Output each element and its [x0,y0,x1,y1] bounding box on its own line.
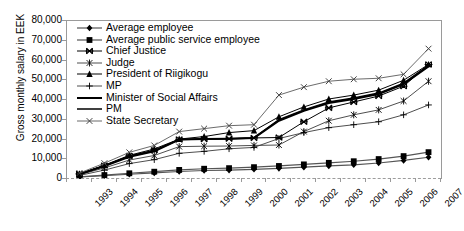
y-tick-label: 50,000 [10,74,62,84]
x-tick-label: 2000 [267,186,290,209]
x-tick-mark [66,178,67,182]
x-tick-mark [440,178,441,182]
x-tick-mark [216,178,217,182]
legend-item: Average public service employee [75,34,260,46]
y-tick-label: 70,000 [10,35,62,45]
x-tick-label: 2004 [367,186,390,209]
legend-marker-asterisk-icon [75,57,105,69]
legend-label: Average employee [105,22,193,34]
legend-marker-plus-icon [75,80,105,92]
x-tick-label: 2007 [442,186,464,209]
legend-item: Minister of Social Affairs [75,92,260,104]
x-tick-mark [415,178,416,182]
legend-item: Average employee [75,22,260,34]
x-tick-label: 2006 [417,186,440,209]
y-tick-mark [62,79,66,80]
legend-marker-bowtie-icon [75,45,105,57]
legend-item: State Secretary [75,115,260,127]
y-axis-tick-labels: 010,00020,00030,00040,00050,00060,00070,… [8,0,62,231]
x-tick-label: 1993 [93,186,116,209]
x-tick-label: 2002 [317,186,340,209]
legend-label: PM [105,103,122,115]
x-tick-label: 1994 [118,186,141,209]
x-tick-label: 1997 [192,186,215,209]
x-tick-mark [116,178,117,182]
chart-legend: Average employeeAverage public service e… [75,22,260,126]
legend-label: State Secretary [105,115,178,127]
y-tick-label: 40,000 [10,94,62,104]
x-tick-label: 2005 [392,186,415,209]
legend-marker-diamond-icon [75,22,105,34]
legend-marker-none-thick-icon [75,92,105,104]
x-tick-mark [141,178,142,182]
y-tick-label: 10,000 [10,153,62,163]
y-tick-mark [62,99,66,100]
legend-item: Chief Justice [75,45,260,57]
legend-item: MP [75,80,260,92]
legend-marker-square-icon [75,34,105,46]
x-tick-mark [390,178,391,182]
x-tick-mark [340,178,341,182]
y-tick-label: 0 [10,173,62,183]
y-tick-mark [62,139,66,140]
x-tick-mark [365,178,366,182]
x-tick-mark [191,178,192,182]
legend-marker-none-medium-icon [75,103,105,115]
legend-item: President of Riigikogu [75,68,260,80]
y-tick-mark [62,60,66,61]
y-tick-mark [62,20,66,21]
x-tick-label: 1998 [217,186,240,209]
x-tick-label: 1995 [143,186,166,209]
legend-marker-triangle-icon [75,68,105,80]
x-tick-mark [166,178,167,182]
legend-label: Minister of Social Affairs [105,92,218,104]
y-tick-mark [62,119,66,120]
x-tick-mark [290,178,291,182]
legend-item: PM [75,103,260,115]
x-tick-mark [315,178,316,182]
y-tick-label: 20,000 [10,134,62,144]
x-tick-label: 2001 [292,186,315,209]
x-tick-mark [241,178,242,182]
legend-label: MP [105,80,122,92]
y-tick-label: 60,000 [10,55,62,65]
x-tick-mark [91,178,92,182]
legend-marker-cross-icon [75,115,105,127]
x-tick-label: 2003 [342,186,365,209]
x-axis-baseline [66,178,441,179]
y-tick-label: 80,000 [10,15,62,25]
x-tick-label: 1996 [167,186,190,209]
x-tick-mark [265,178,266,182]
y-tick-label: 30,000 [10,114,62,124]
x-tick-label: 1999 [242,186,265,209]
y-tick-mark [62,40,66,41]
y-tick-mark [62,158,66,159]
